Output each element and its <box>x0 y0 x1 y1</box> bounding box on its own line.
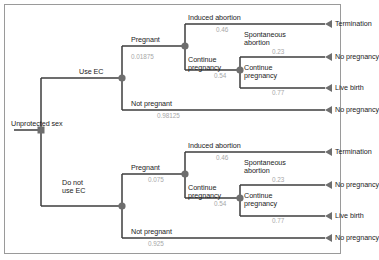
probability-pregnant-upper: 0.01875 <box>131 53 154 60</box>
branch-label-pregnant-upper: Pregnant <box>131 36 160 44</box>
branch-label-use-ec: Use EC <box>79 68 103 76</box>
terminal-marker-termination-lower <box>325 148 332 156</box>
probability-continue-pregnancy-2-upper: 0.77 <box>272 89 284 96</box>
branch-label-spontaneous-abortion-upper-line2: abortion <box>244 39 270 47</box>
terminal-marker-live-birth-lower <box>325 212 332 220</box>
probability-induced-abortion-lower: 0.46 <box>216 154 228 161</box>
branch-label-not-pregnant-upper: Not pregnant <box>131 100 172 108</box>
chance-node-use-ec <box>118 74 125 81</box>
terminal-marker-termination-upper <box>325 20 332 28</box>
outcome-live-birth-lower: Live birth <box>335 212 364 220</box>
outcome-no-pregnancy-lower-1: No pregnancy <box>335 181 379 189</box>
root-label: Unprotected sex <box>11 120 63 128</box>
branch-label-continue-pregnancy-2-lower-line2: pregnancy <box>244 200 277 208</box>
outcome-termination-upper: Termination <box>335 20 372 28</box>
terminal-marker-no-pregnancy-upper-2 <box>325 106 332 114</box>
outcome-termination-lower: Termination <box>335 148 372 156</box>
branch-label-induced-abortion-lower: Induced abortion <box>188 142 241 150</box>
chance-node-continue-upper <box>236 66 243 73</box>
chance-node-no-ec <box>118 202 125 209</box>
probability-spontaneous-abortion-lower: 0.23 <box>272 176 284 183</box>
branch-label-spontaneous-abortion-lower-line2: abortion <box>244 167 270 175</box>
terminal-marker-no-pregnancy-lower-2 <box>325 234 332 242</box>
terminal-marker-no-pregnancy-lower-1 <box>325 181 332 189</box>
outcome-no-pregnancy-lower-2: No pregnancy <box>335 234 379 242</box>
outcome-no-pregnancy-upper-1: No pregnancy <box>335 53 379 61</box>
branch-label-induced-abortion-upper: Induced abortion <box>188 14 241 22</box>
probability-pregnant-lower: 0.075 <box>148 176 164 183</box>
probability-continue-pregnancy-1-lower: 0.54 <box>214 200 226 207</box>
probability-not-pregnant-lower: 0.925 <box>148 240 164 247</box>
chance-node-pregnant-lower <box>181 170 188 177</box>
terminal-marker-no-pregnancy-upper-1 <box>325 53 332 61</box>
branch-label-pregnant-lower: Pregnant <box>131 164 160 172</box>
chance-node-continue-lower <box>236 194 243 201</box>
branch-label-no-ec-line2: use EC <box>62 187 85 195</box>
branch-label-not-pregnant-lower: Not pregnant <box>131 228 172 236</box>
terminal-marker-live-birth-upper <box>325 84 332 92</box>
outcome-no-pregnancy-upper-2: No pregnancy <box>335 106 379 114</box>
probability-continue-pregnancy-2-lower: 0.77 <box>272 217 284 224</box>
branch-label-continue-pregnancy-2-upper-line2: pregnancy <box>244 72 277 80</box>
chance-node-pregnant-upper <box>181 42 188 49</box>
probability-continue-pregnancy-1-upper: 0.54 <box>214 72 226 79</box>
probability-not-pregnant-upper: 0.98125 <box>157 112 180 119</box>
probability-induced-abortion-upper: 0.46 <box>216 26 228 33</box>
probability-spontaneous-abortion-upper: 0.23 <box>272 48 284 55</box>
outcome-live-birth-upper: Live birth <box>335 84 364 92</box>
